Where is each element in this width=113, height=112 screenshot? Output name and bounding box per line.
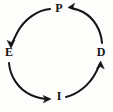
edge-d-to-p	[68, 3, 102, 43]
arc-d-to-p	[71, 8, 102, 43]
node-label-i: I	[52, 90, 66, 102]
node-label-p: P	[52, 2, 66, 14]
arrowhead-into-d	[97, 61, 105, 69]
edge-i-to-d	[66, 61, 104, 97]
arc-p-to-e	[11, 9, 50, 46]
arc-e-to-i	[9, 63, 48, 99]
edge-e-to-i	[9, 63, 51, 103]
arc-i-to-d	[66, 64, 100, 97]
node-label-e: E	[2, 46, 16, 58]
cycle-diagram: P D I E	[0, 0, 113, 112]
node-label-d: D	[94, 46, 108, 58]
arrowhead-into-p	[68, 3, 76, 10]
edge-p-to-e	[7, 9, 50, 48]
